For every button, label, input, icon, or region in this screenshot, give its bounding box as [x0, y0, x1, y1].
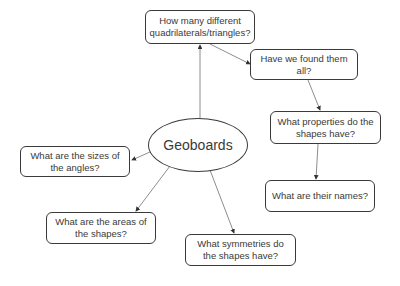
node-areas: What are the areas of the shapes?: [46, 212, 156, 244]
node-names: What are their names?: [265, 180, 375, 212]
node-symmetries: What symmetries do the shapes have?: [185, 234, 296, 266]
node-found-them-all: Have we found them all?: [250, 49, 358, 80]
node-label: What are the areas of the shapes?: [51, 216, 151, 240]
node-label: How many different quadrilaterals/triang…: [150, 15, 251, 39]
node-label: What properties do the shapes have?: [275, 116, 376, 140]
edge-center-q5: [132, 152, 150, 160]
node-how-many-shapes: How many different quadrilaterals/triang…: [145, 10, 255, 44]
edge-center-q6: [136, 166, 170, 211]
edge-center-q7: [210, 170, 234, 233]
node-angle-sizes: What are the sizes of the angles?: [20, 146, 130, 177]
node-label: What symmetries do the shapes have?: [190, 238, 291, 262]
node-properties: What properties do the shapes have?: [270, 111, 381, 144]
node-label: What are their names?: [272, 190, 368, 202]
node-label: Have we found them all?: [255, 53, 353, 77]
center-node-label: Geoboards: [163, 137, 232, 153]
edge-q3-q4: [316, 144, 318, 179]
concept-map-canvas: Geoboards How many different quadrilater…: [0, 0, 400, 286]
node-label: What are the sizes of the angles?: [25, 150, 125, 174]
center-node-geoboards: Geoboards: [148, 118, 248, 172]
edge-q2-q3: [308, 80, 320, 110]
edge-q1-q2: [210, 44, 250, 64]
